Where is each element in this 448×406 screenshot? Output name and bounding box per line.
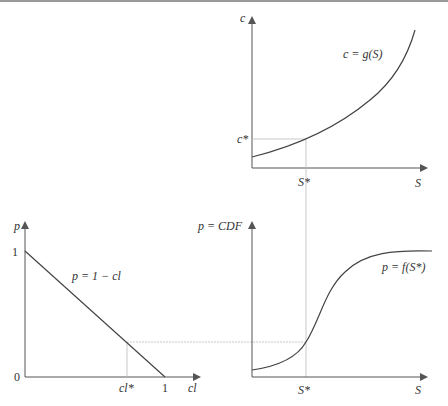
bottom-right-chart: p = CDF p = f(S*) S* S (197, 219, 432, 397)
bl-y-tick-0: 0 (14, 370, 20, 384)
top-s-star-label: S* (298, 175, 310, 189)
br-y-axis-label: p = CDF (197, 219, 243, 233)
top-y-axis-label: c (240, 11, 246, 25)
diagram-canvas: c S c = g(S) c* S* p 1 0 p = 1 − cl cl* … (0, 0, 448, 406)
bl-x-axis-label: cl (188, 381, 197, 395)
bl-y-axis-label: p (13, 219, 20, 233)
br-curve-label: p = f(S*) (381, 260, 425, 274)
top-chart: c S c = g(S) c* S* (237, 11, 424, 377)
top-x-axis-label: S (415, 176, 421, 190)
top-c-star-label: c* (237, 132, 248, 146)
bl-x-tick-1: 1 (162, 381, 168, 395)
top-curve-label: c = g(S) (343, 47, 382, 61)
br-x-axis-label: S (415, 383, 421, 397)
bl-cl-star-label: cl* (119, 381, 134, 395)
bl-curve-label: p = 1 − cl (71, 269, 122, 283)
curve-c-g-s (252, 30, 415, 157)
bl-y-tick-1: 1 (12, 245, 18, 259)
br-s-star-label: S* (298, 383, 310, 397)
